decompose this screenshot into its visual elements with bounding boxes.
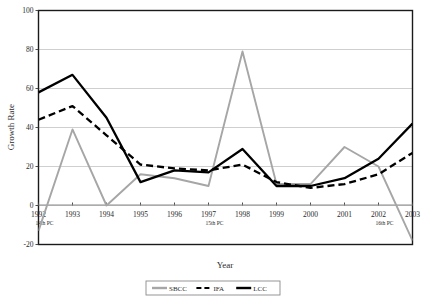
legend-label-ifa: IFA [213,285,224,293]
x-tick-sublabel: 14th PC [35,220,53,226]
chart-background [0,0,423,300]
y-tick-label: 100 [22,6,34,15]
y-tick-label: 20 [26,162,34,171]
x-tick-label: 2001 [337,210,352,219]
legend-label-lcc: LCC [253,285,267,293]
x-axis-title: Year [217,260,234,270]
x-tick-label: 1993 [65,210,80,219]
x-tick-label: 1994 [99,210,114,219]
legend-label-sbcc: SBCC [169,285,187,293]
x-tick-label: 1999 [269,210,284,219]
y-tick-label: 40 [26,123,34,132]
x-tick-label: 1998 [235,210,250,219]
x-tick-sublabel: 15th PC [205,220,223,226]
y-tick-label: -20 [24,240,34,249]
y-axis-title: Growth Rate [6,104,16,150]
x-tick-sublabel: 16th PC [375,220,393,226]
chart-legend: SBCCIFALCC [146,281,280,295]
x-tick-label: 1996 [167,210,182,219]
x-tick-label: 2000 [303,210,318,219]
y-tick-label: 80 [26,45,34,54]
growth-rate-line-chart: 100806040200-20 199214th PC1993199419951… [0,0,423,300]
y-tick-label: 60 [26,84,34,93]
x-tick-label: 2003 [405,210,420,219]
x-tick-label: 1997 [201,210,216,219]
x-tick-label: 1995 [133,210,148,219]
x-tick-label: 2002 [371,210,386,219]
chart-canvas: 100806040200-20 199214th PC1993199419951… [0,0,423,300]
